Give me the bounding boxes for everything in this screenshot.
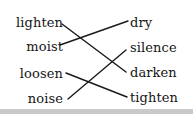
match-line-noise-to-silence[interactable] [68,50,126,99]
matching-exercise: lighten moist loosen noise dry silence d… [0,0,193,114]
left-word-loosen[interactable]: loosen [20,67,63,80]
match-line-moist-to-dry[interactable] [60,21,128,45]
match-line-lighten-to-darken[interactable] [62,24,126,72]
left-word-lighten[interactable]: lighten [16,16,63,29]
right-word-darken[interactable]: darken [130,66,177,79]
left-word-noise[interactable]: noise [28,92,63,105]
footer-band [0,109,193,114]
right-word-dry[interactable]: dry [130,16,152,29]
left-word-moist[interactable]: moist [26,40,63,53]
right-word-silence[interactable]: silence [130,41,177,54]
right-word-tighten[interactable]: tighten [130,91,178,104]
